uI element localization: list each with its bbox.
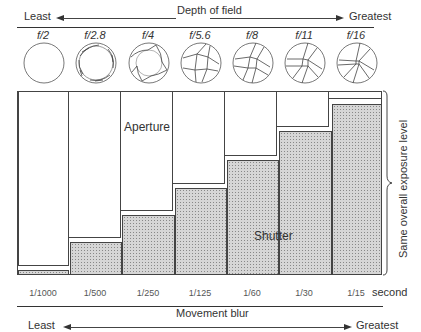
fnum-label: f/2.8 (75, 29, 115, 41)
shutter-speed-label: 1/125 (180, 288, 220, 298)
shutter-bar (18, 270, 69, 274)
fnum-label: f/2 (23, 29, 63, 41)
bottom-arrow-line (70, 327, 344, 328)
aperture-f11-icon (284, 42, 326, 84)
fnum-label: f/16 (336, 29, 376, 41)
aperture-bar (276, 92, 329, 127)
shutter-speed-label: 1/30 (284, 288, 324, 298)
shutter-bar (122, 215, 175, 274)
shutter-speed-label: 1/250 (128, 288, 168, 298)
aperture-bar (328, 92, 382, 99)
bottom-axis-left-label: Least (28, 319, 55, 331)
top-arrow-line-left (63, 18, 176, 19)
aperture-f16-icon (336, 42, 378, 84)
aperture-bar (172, 92, 225, 184)
shutter-speed-label: 1/15 (336, 288, 376, 298)
top-axis-left-label: Least (24, 10, 51, 22)
shutter-bar (175, 188, 227, 274)
shutter-speed-label: 1/500 (75, 288, 115, 298)
aperture-bar (224, 92, 277, 156)
shutter-bar (279, 131, 332, 274)
aperture-label: Aperture (124, 120, 170, 134)
aperture-f8-icon (232, 42, 274, 84)
shutter-bar (332, 104, 382, 274)
bottom-axis-right-label: Greatest (356, 319, 398, 331)
fnum-label: f/4 (128, 29, 168, 41)
bottom-axis-title: Movement blur (176, 307, 249, 319)
top-axis-right-label: Greatest (349, 10, 391, 22)
aperture-f2-8-icon (75, 42, 117, 84)
shutter-speed-label: 1/60 (232, 288, 272, 298)
fnum-label: f/11 (284, 29, 324, 41)
bottom-right-arrowhead-icon (344, 324, 352, 330)
aperture-f4-icon (128, 42, 170, 84)
aperture-bar (18, 92, 69, 266)
fnum-label: f/5.6 (180, 29, 220, 41)
top-axis-title: Depth of field (177, 4, 242, 16)
shutter-bar (227, 160, 279, 274)
exposure-chart: Aperture Shutter (17, 91, 382, 275)
top-arrow-line-right (210, 18, 340, 19)
fnum-label: f/8 (232, 29, 272, 41)
speed-unit-label: second (372, 286, 407, 298)
shutter-speed-label: 1/1000 (23, 288, 63, 298)
brace-label: Same overall exposure level (397, 120, 409, 258)
exposure-brace-icon (382, 90, 394, 276)
shutter-label: Shutter (254, 229, 293, 243)
aperture-f5-6-icon (180, 42, 222, 84)
aperture-open-icon (23, 42, 65, 84)
top-divider (17, 27, 374, 28)
aperture-bar (120, 92, 173, 211)
shutter-bar (70, 242, 122, 274)
aperture-bar (68, 92, 121, 238)
top-right-arrowhead-icon (336, 15, 344, 21)
